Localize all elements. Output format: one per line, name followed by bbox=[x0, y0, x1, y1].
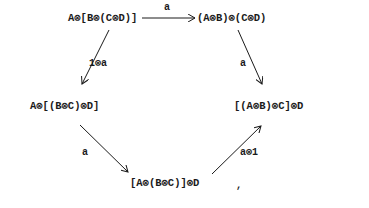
arrow-label-lower-right: a⊗1 bbox=[240, 147, 258, 159]
arrow-label-left: 1⊗a bbox=[89, 58, 107, 70]
node-top-right: (A⊗B)⊗(C⊗D) bbox=[197, 12, 266, 24]
node-mid-left: A⊗[(B⊗C)⊗D] bbox=[30, 100, 99, 112]
arrow-right bbox=[238, 30, 262, 84]
trailing-comma: , bbox=[236, 180, 242, 192]
node-top-left: A⊗[B⊗(C⊗D)] bbox=[68, 12, 137, 24]
arrow-label-lower-left: a bbox=[82, 147, 88, 159]
node-bottom: [A⊗(B⊗C)]⊗D bbox=[130, 177, 199, 189]
arrow-label-right: a bbox=[240, 58, 246, 70]
arrow-label-top: a bbox=[164, 2, 170, 14]
arrow-left bbox=[82, 30, 109, 84]
node-mid-right: [(A⊗B)⊗C]⊗D bbox=[234, 100, 303, 112]
